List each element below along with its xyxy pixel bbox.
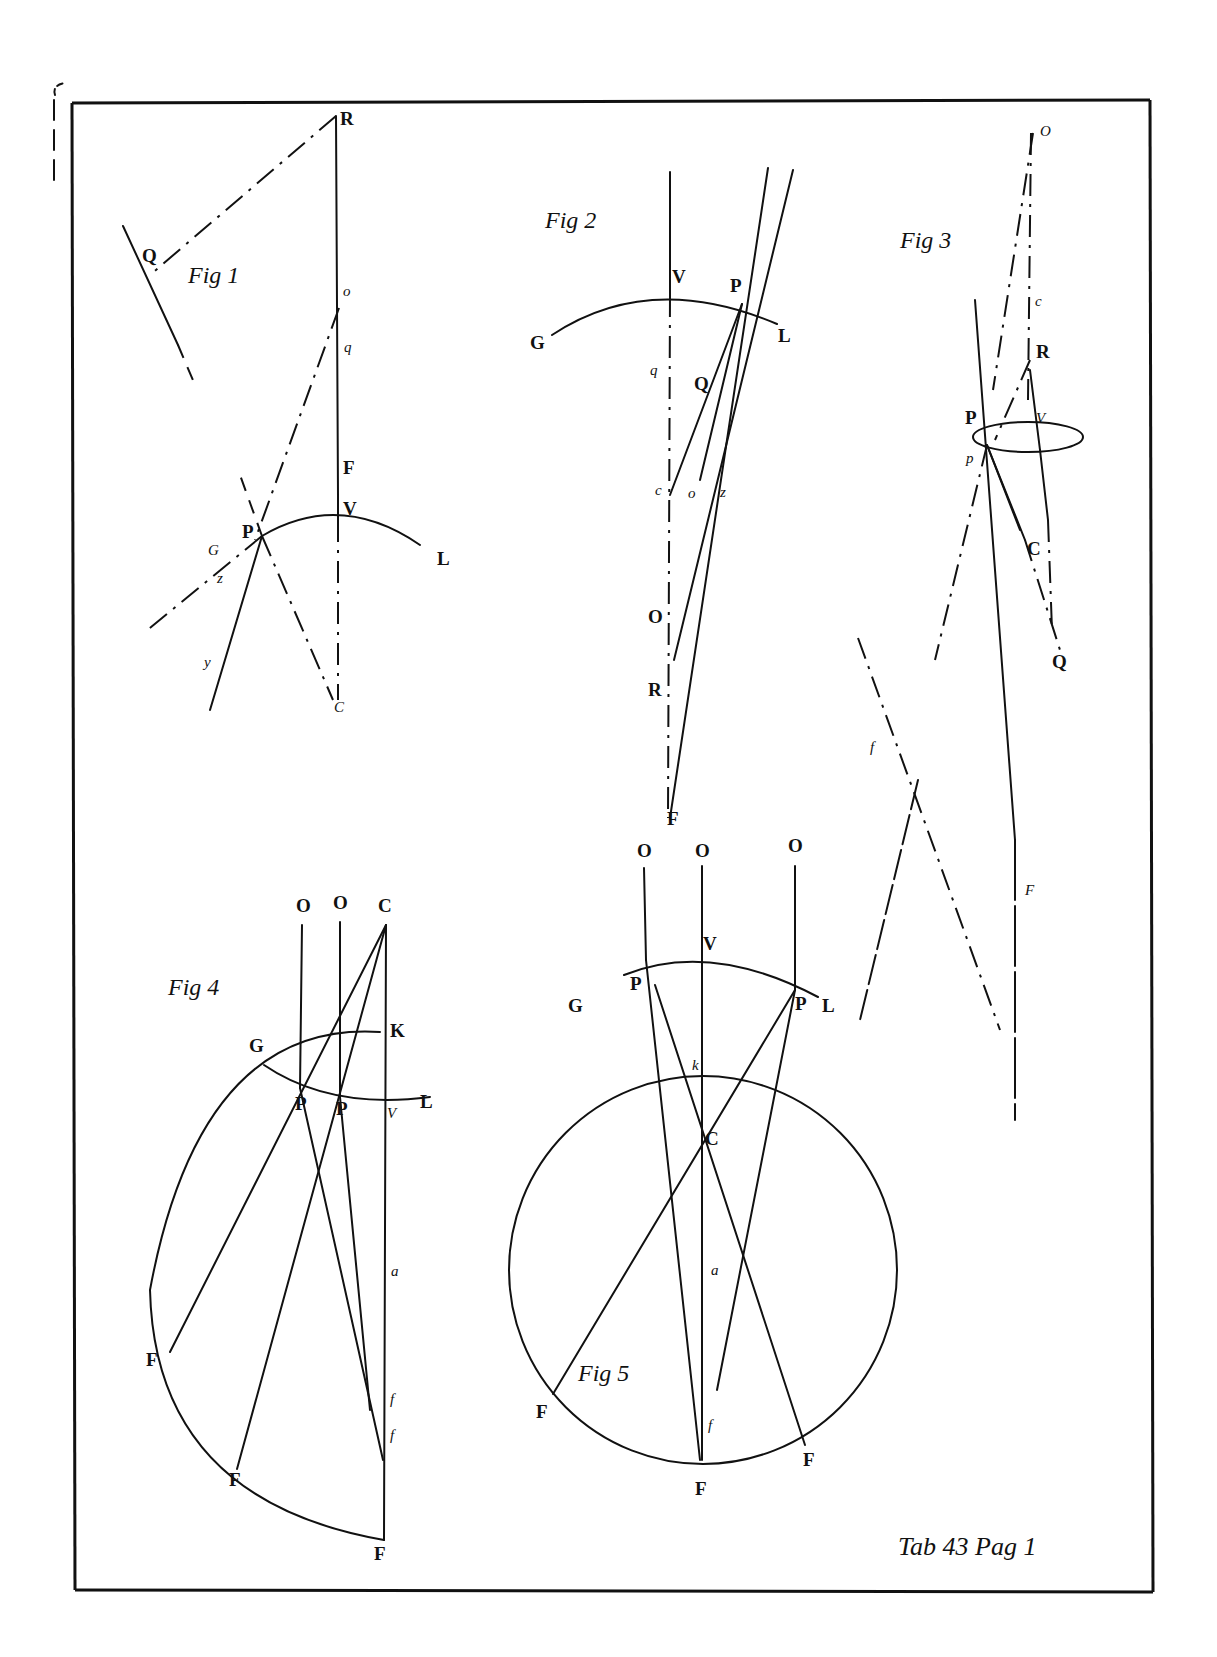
svg-text:f: f: [870, 739, 876, 755]
svg-text:P: P: [336, 1098, 348, 1119]
svg-text:V: V: [387, 1105, 398, 1121]
svg-text:V: V: [703, 933, 717, 954]
svg-text:q: q: [344, 339, 352, 355]
svg-text:a: a: [391, 1263, 399, 1279]
svg-text:F: F: [343, 457, 355, 478]
svg-text:V: V: [672, 266, 686, 287]
figure-1-title: Fig 1: [187, 262, 239, 288]
svg-text:o: o: [688, 485, 696, 501]
svg-text:O: O: [637, 840, 652, 861]
svg-text:k: k: [692, 1057, 699, 1073]
figure-4-title: Fig 4: [167, 974, 219, 1000]
figure-5: Fig 5 O O O V G P P L k C a F F F f: [509, 835, 897, 1499]
figure-3-title: Fig 3: [899, 227, 951, 253]
svg-text:P: P: [295, 1093, 307, 1114]
svg-text:c: c: [655, 482, 662, 498]
svg-text:R: R: [340, 108, 354, 129]
svg-text:Q: Q: [1052, 651, 1067, 672]
svg-text:G: G: [530, 332, 545, 353]
svg-text:p: p: [965, 450, 974, 466]
svg-text:F: F: [803, 1449, 815, 1470]
svg-text:Q: Q: [694, 373, 709, 394]
svg-text:P: P: [965, 407, 977, 428]
engraved-plate: Fig 1 R Q o q F V P G z y L C Fig 2 V: [0, 0, 1217, 1657]
svg-text:P: P: [242, 521, 254, 542]
svg-text:L: L: [822, 995, 835, 1016]
svg-text:c: c: [1035, 293, 1042, 309]
svg-text:F: F: [229, 1469, 241, 1490]
svg-text:F: F: [1024, 882, 1035, 898]
svg-text:O: O: [695, 840, 710, 861]
svg-text:F: F: [667, 808, 679, 829]
svg-text:O: O: [648, 606, 663, 627]
svg-text:O: O: [788, 835, 803, 856]
svg-text:F: F: [146, 1349, 158, 1370]
svg-text:y: y: [202, 654, 211, 670]
svg-text:f: f: [708, 1417, 714, 1433]
svg-text:F: F: [536, 1401, 548, 1422]
figure-2: Fig 2 V P G L q Q c o z O R F: [530, 168, 793, 829]
svg-text:R: R: [1036, 341, 1050, 362]
svg-text:f: f: [390, 1427, 396, 1443]
svg-text:L: L: [778, 325, 791, 346]
svg-text:C: C: [1027, 538, 1041, 559]
svg-text:C: C: [705, 1128, 719, 1149]
figure-1: Fig 1 R Q o q F V P G z y L C: [123, 108, 450, 715]
svg-text:R: R: [648, 679, 662, 700]
svg-text:V: V: [343, 498, 357, 519]
figure-3: Fig 3 O c R P V p C Q f F: [858, 123, 1083, 1120]
svg-text:q: q: [650, 362, 658, 378]
svg-text:C: C: [378, 895, 392, 916]
svg-text:F: F: [695, 1478, 707, 1499]
svg-text:a: a: [711, 1262, 719, 1278]
svg-text:G: G: [208, 542, 219, 558]
svg-text:L: L: [437, 548, 450, 569]
svg-text:G: G: [249, 1035, 264, 1056]
svg-text:O: O: [333, 892, 348, 913]
svg-text:o: o: [343, 283, 351, 299]
svg-text:z: z: [216, 570, 223, 586]
svg-text:z: z: [719, 484, 726, 500]
svg-text:O: O: [296, 895, 311, 916]
figure-2-title: Fig 2: [544, 207, 596, 233]
figure-4: Fig 4 O O C K G P P V L a F F F f f: [146, 892, 433, 1564]
svg-text:L: L: [420, 1091, 433, 1112]
svg-text:f: f: [390, 1391, 396, 1407]
figure-5-title: Fig 5: [577, 1360, 629, 1386]
svg-text:K: K: [390, 1020, 405, 1041]
svg-text:Q: Q: [142, 245, 157, 266]
svg-text:P: P: [795, 993, 807, 1014]
svg-text:P: P: [730, 275, 742, 296]
svg-text:C: C: [334, 699, 345, 715]
svg-text:O: O: [1040, 123, 1051, 139]
svg-text:F: F: [374, 1543, 386, 1564]
plate-caption: Tab 43 Pag 1: [898, 1532, 1036, 1561]
svg-text:G: G: [568, 995, 583, 1016]
svg-text:P: P: [630, 973, 642, 994]
